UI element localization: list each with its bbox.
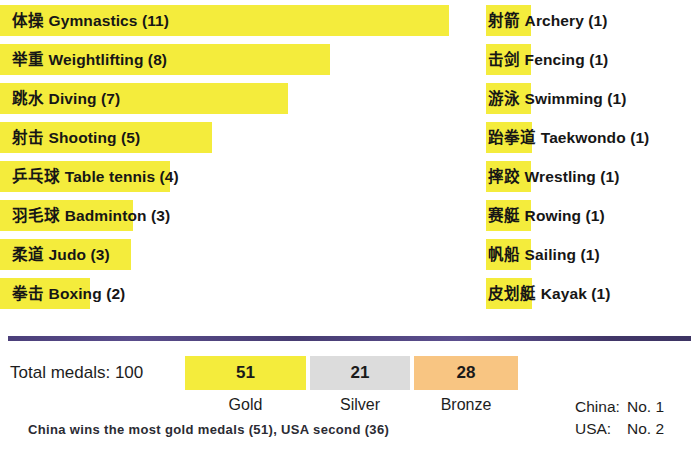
sport-name-english: Weightlifting (8) bbox=[44, 51, 167, 68]
summary-caption: China wins the most gold medals (51), US… bbox=[28, 422, 389, 437]
medal-totals-row: Total medals: 100 51 Gold 21 Silver 28 B… bbox=[0, 356, 697, 390]
gold-medal-count: 51 bbox=[185, 356, 306, 390]
total-medals-label: Total medals: 100 bbox=[10, 356, 143, 390]
medal-summary-page: 体操 Gymnastics (11)举重 Weightlifting (8)跳水… bbox=[0, 0, 697, 450]
sport-name-chinese: 羽毛球 bbox=[12, 207, 60, 225]
sport-row: 射箭 Archery (1) bbox=[470, 0, 697, 39]
ranking-place: No. 2 bbox=[627, 418, 664, 440]
bronze-medal-count: 28 bbox=[414, 356, 518, 390]
sport-row: 帆船 Sailing (1) bbox=[470, 234, 697, 273]
ranking-country: China: bbox=[575, 396, 627, 418]
sport-name-chinese: 游泳 bbox=[488, 90, 520, 108]
sport-label: 帆船 Sailing (1) bbox=[488, 239, 600, 270]
sport-name-english: Swimming (1) bbox=[520, 90, 626, 107]
sport-name-chinese: 击剑 bbox=[488, 51, 520, 69]
sport-row: 游泳 Swimming (1) bbox=[470, 78, 697, 117]
sport-row: 赛艇 Rowing (1) bbox=[470, 195, 697, 234]
sport-name-english: Shooting (5) bbox=[44, 129, 140, 146]
sport-name-chinese: 帆船 bbox=[488, 246, 520, 264]
section-divider bbox=[8, 336, 691, 341]
silver-medal-caption: Silver bbox=[310, 392, 410, 418]
sport-name-chinese: 射击 bbox=[12, 129, 44, 147]
sport-label: 跳水 Diving (7) bbox=[12, 83, 120, 114]
sport-name-chinese: 体操 bbox=[12, 12, 44, 30]
sports-column-right: 射箭 Archery (1)击剑 Fencing (1)游泳 Swimming … bbox=[470, 0, 697, 312]
sport-label: 赛艇 Rowing (1) bbox=[488, 200, 605, 231]
sport-name-chinese: 乒乓球 bbox=[12, 168, 60, 186]
sport-label: 皮划艇 Kayak (1) bbox=[488, 278, 611, 309]
sport-row: 柔道 Judo (3) bbox=[0, 234, 470, 273]
sport-name-english: Judo (3) bbox=[44, 246, 109, 263]
sport-name-chinese: 拳击 bbox=[12, 285, 44, 303]
sport-name-english: Fencing (1) bbox=[520, 51, 608, 68]
sport-label: 体操 Gymnastics (11) bbox=[12, 5, 169, 36]
silver-medal-count: 21 bbox=[310, 356, 410, 390]
sport-name-english: Sailing (1) bbox=[520, 246, 600, 263]
sports-column-left: 体操 Gymnastics (11)举重 Weightlifting (8)跳水… bbox=[0, 0, 470, 312]
sport-label: 柔道 Judo (3) bbox=[12, 239, 110, 270]
sport-name-english: Table tennis (4) bbox=[60, 168, 179, 185]
ranking-country: USA: bbox=[575, 418, 627, 440]
sport-label: 跆拳道 Taekwondo (1) bbox=[488, 122, 649, 153]
sport-row: 跳水 Diving (7) bbox=[0, 78, 470, 117]
ranking-row: China:No. 1 bbox=[575, 396, 697, 418]
sport-name-english: Gymnastics (11) bbox=[44, 12, 169, 29]
sport-row: 体操 Gymnastics (11) bbox=[0, 0, 470, 39]
sport-name-chinese: 摔跤 bbox=[488, 168, 520, 186]
sport-label: 游泳 Swimming (1) bbox=[488, 83, 627, 114]
sport-label: 击剑 Fencing (1) bbox=[488, 44, 608, 75]
sport-row: 皮划艇 Kayak (1) bbox=[470, 273, 697, 312]
sport-name-chinese: 皮划艇 bbox=[488, 285, 536, 303]
sport-name-chinese: 跳水 bbox=[12, 90, 44, 108]
sport-label: 拳击 Boxing (2) bbox=[12, 278, 125, 309]
sport-label: 羽毛球 Badminton (3) bbox=[12, 200, 170, 231]
sport-row: 举重 Weightlifting (8) bbox=[0, 39, 470, 78]
sport-name-english: Rowing (1) bbox=[520, 207, 605, 224]
sport-row: 羽毛球 Badminton (3) bbox=[0, 195, 470, 234]
sport-name-chinese: 柔道 bbox=[12, 246, 44, 264]
country-ranking-block: China:No. 1USA:No. 2 bbox=[575, 396, 697, 440]
sport-label: 摔跤 Wrestling (1) bbox=[488, 161, 620, 192]
sport-name-chinese: 射箭 bbox=[488, 12, 520, 30]
sport-row: 拳击 Boxing (2) bbox=[0, 273, 470, 312]
sport-label: 举重 Weightlifting (8) bbox=[12, 44, 167, 75]
sport-name-chinese: 跆拳道 bbox=[488, 129, 536, 147]
sport-name-english: Badminton (3) bbox=[60, 207, 170, 224]
ranking-row: USA:No. 2 bbox=[575, 418, 697, 440]
sport-row: 乒乓球 Table tennis (4) bbox=[0, 156, 470, 195]
sport-name-chinese: 赛艇 bbox=[488, 207, 520, 225]
sport-name-english: Diving (7) bbox=[44, 90, 120, 107]
sport-row: 射击 Shooting (5) bbox=[0, 117, 470, 156]
gold-medal-caption: Gold bbox=[185, 392, 306, 418]
sport-name-english: Boxing (2) bbox=[44, 285, 125, 302]
ranking-place: No. 1 bbox=[627, 396, 664, 418]
sport-name-english: Archery (1) bbox=[520, 12, 607, 29]
sport-name-english: Wrestling (1) bbox=[520, 168, 619, 185]
sport-label: 乒乓球 Table tennis (4) bbox=[12, 161, 179, 192]
sport-name-english: Kayak (1) bbox=[536, 285, 610, 302]
sport-row: 摔跤 Wrestling (1) bbox=[470, 156, 697, 195]
sport-row: 跆拳道 Taekwondo (1) bbox=[470, 117, 697, 156]
sport-name-english: Taekwondo (1) bbox=[536, 129, 649, 146]
bronze-medal-caption: Bronze bbox=[414, 392, 518, 418]
sport-name-chinese: 举重 bbox=[12, 51, 44, 69]
sport-row: 击剑 Fencing (1) bbox=[470, 39, 697, 78]
sport-label: 射箭 Archery (1) bbox=[488, 5, 608, 36]
sport-label: 射击 Shooting (5) bbox=[12, 122, 140, 153]
